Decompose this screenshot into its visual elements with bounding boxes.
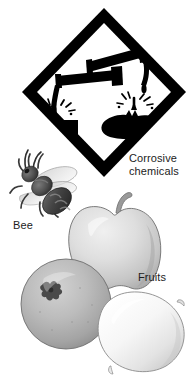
label-fruits: Fruits [138, 271, 184, 284]
label-corrosive-chemicals: Corrosive chemicals [129, 152, 193, 178]
lemon-illustration [0, 0, 194, 383]
figure-root: Corrosive chemicals Bee Fruits [0, 0, 194, 383]
lemon-tip-top [177, 300, 184, 306]
lemon-tip-bottom [109, 366, 113, 374]
label-bee: Bee [13, 219, 53, 232]
